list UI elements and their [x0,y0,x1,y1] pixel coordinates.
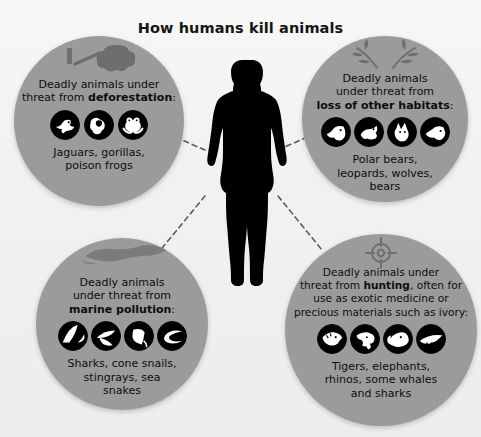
caption-line-1: Jaguars, gorillas, [53,146,144,159]
caption-line-2: poison frogs [65,159,132,172]
bubble-habitat-loss[interactable]: Deadly animals under threat from loss of… [302,36,468,202]
emphasis-suffix: : [450,99,454,112]
caption-line-2: stingrays, sea [84,371,161,384]
bubble-text-hunting: Deadly animals under threat from hunting… [289,266,473,319]
emphasis-suffix: , often for [410,279,462,291]
leopard-icon [354,117,384,147]
caption-deforestation: Jaguars, gorillas, poison frogs [47,146,150,173]
emphasis-marine-pollution: marine pollution [69,303,171,316]
bubble-text-marine-pollution: Deadly animals under threat from marine … [61,276,183,316]
page-title: How humans kill animals [0,20,481,36]
bubble-deforestation[interactable]: Deadly animals under threat from defores… [14,36,184,206]
emphasis-suffix: : [171,303,175,316]
animal-icons-marine-pollution [58,321,187,351]
text-line-1: Deadly animals [79,276,164,289]
caption-line-1: Polar bears, [352,153,417,166]
text-line-1: Deadly animals under [323,266,439,278]
caption-line-1: Sharks, cone snails, [67,357,176,370]
caption-line-3: and sharks [351,387,411,400]
shark-icon [416,324,446,354]
tiger-icon [317,324,347,354]
caption-line-1: Tigers, elephants, [332,360,430,373]
text-line-2: threat from [300,279,364,291]
polar-bear-icon [321,117,351,147]
jaguar-icon [50,110,80,140]
bubble-text-habitat-loss: Deadly animals under threat from loss of… [309,72,462,112]
caption-line-2: leopards, wolves, [337,167,433,180]
text-line-2: under threat from [73,289,171,302]
gorilla-icon [84,110,114,140]
bear-icon [420,117,450,147]
stingray-icon [124,321,154,351]
animal-icons-hunting [317,324,446,354]
text-line-4: precious materials such as ivory: [294,306,468,318]
elephant-icon [350,324,380,354]
text-line-1: Deadly animals under [39,78,160,91]
poison-frog-icon [118,110,148,140]
infographic-root: How humans kill animals Deadly animals u… [0,0,481,437]
caption-line-2: rhinos, some whales [325,373,438,386]
wolf-icon [387,117,417,147]
rhino-icon [383,324,413,354]
cone-snail-icon [91,321,121,351]
bubble-hunting[interactable]: Deadly animals under threat from hunting… [285,234,477,426]
animal-icons-habitat-loss [321,117,450,147]
animal-icons-deforestation [50,110,148,140]
text-line-2: threat from [22,91,88,104]
shark-icon [58,321,88,351]
emphasis-hunting: hunting [363,279,409,291]
sea-snake-icon [157,321,187,351]
bubble-marine-pollution[interactable]: Deadly animals under threat from marine … [36,238,208,410]
emphasis-suffix: : [172,91,176,104]
caption-marine-pollution: Sharks, cone snails, stingrays, sea snak… [61,357,182,397]
caption-hunting: Tigers, elephants, rhinos, some whales a… [319,360,444,400]
text-line-3: use as exotic medicine or [313,292,448,304]
caption-line-3: snakes [103,384,141,397]
emphasis-deforestation: deforestation [88,91,172,104]
caption-line-3: bears [370,180,401,193]
text-line-1: Deadly animals [342,72,427,85]
human-silhouette [196,58,288,286]
text-line-2: under threat from [336,85,434,98]
emphasis-habitat-loss: loss of other habitats [317,99,450,112]
bubble-text-deforestation: Deadly animals under threat from defores… [14,78,184,105]
caption-habitat-loss: Polar bears, leopards, wolves, bears [331,153,439,193]
